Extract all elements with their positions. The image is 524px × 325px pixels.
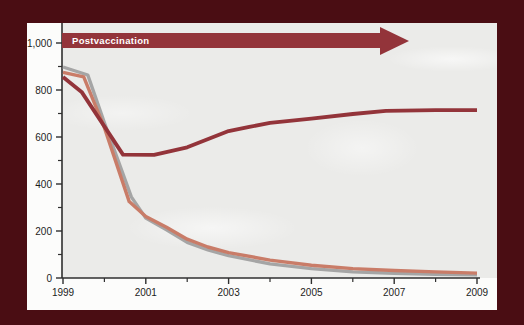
chart-canvas: 02004006008001,0001999200120032005200720… xyxy=(62,23,497,278)
postvaccination-label: Postvaccination xyxy=(62,33,380,48)
x-axis-label: 1999 xyxy=(52,287,75,298)
line-dark-red xyxy=(63,77,477,155)
line-salmon xyxy=(63,72,477,273)
y-axis-label: 600 xyxy=(35,132,52,143)
arrow-head-icon xyxy=(380,27,409,55)
plot-area: 02004006008001,0001999200120032005200720… xyxy=(62,23,497,278)
postvaccination-arrow: Postvaccination xyxy=(62,33,380,48)
y-axis-label: 1,000 xyxy=(27,38,52,49)
x-axis-label: 2003 xyxy=(217,287,240,298)
y-axis-label: 200 xyxy=(35,226,52,237)
background-brain-scan: 02004006008001,0001999200120032005200720… xyxy=(0,0,524,325)
chart-panel: 02004006008001,0001999200120032005200720… xyxy=(27,23,497,310)
x-axis-label: 2001 xyxy=(135,287,158,298)
y-axis-label: 400 xyxy=(35,179,52,190)
x-axis-label: 2007 xyxy=(383,287,406,298)
x-axis-label: 2009 xyxy=(466,287,489,298)
y-axis-label: 0 xyxy=(46,273,52,284)
line-gray xyxy=(63,67,477,275)
y-axis-label: 800 xyxy=(35,85,52,96)
x-axis-label: 2005 xyxy=(300,287,323,298)
